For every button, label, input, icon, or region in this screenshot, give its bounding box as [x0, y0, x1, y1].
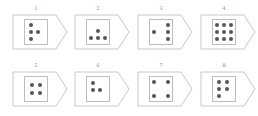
card-label: 5	[10, 62, 62, 68]
pip-dot	[217, 87, 221, 91]
pip-dot	[152, 80, 156, 84]
pip-dot	[36, 30, 40, 34]
pentagon-card	[12, 70, 70, 108]
dice-face	[86, 76, 110, 102]
pentagon-card	[74, 13, 132, 51]
pip-dot	[166, 80, 170, 84]
pip-dot	[215, 30, 219, 34]
pip-dot	[152, 30, 156, 34]
card-label: 6	[72, 62, 124, 68]
card-2: 2	[72, 5, 132, 57]
pip-dot	[166, 23, 170, 27]
pip-dot	[217, 80, 221, 84]
card-label: 2	[72, 5, 124, 11]
pip-dot	[225, 87, 229, 91]
card-8: 8	[198, 62, 258, 114]
dice-face	[149, 76, 173, 102]
pip-dot	[89, 36, 93, 40]
pip-dot	[222, 37, 226, 41]
pip-dot	[96, 29, 100, 33]
pip-dot	[29, 30, 33, 34]
dice-face	[24, 19, 48, 45]
dice-face	[86, 19, 110, 45]
pip-dot	[98, 88, 102, 92]
pip-dot	[166, 37, 170, 41]
pip-dot	[217, 94, 221, 98]
pentagon-card	[200, 13, 258, 51]
pip-dot	[229, 30, 233, 34]
pip-dot	[166, 30, 170, 34]
dice-face	[24, 76, 48, 102]
pip-dot	[91, 81, 95, 85]
card-label: 1	[10, 5, 62, 11]
pentagon-card	[200, 70, 258, 108]
pip-dot	[30, 83, 34, 87]
card-7: 7	[135, 62, 195, 114]
dice-face	[212, 76, 236, 102]
pip-dot	[38, 83, 42, 87]
pip-dot	[222, 23, 226, 27]
pip-dot	[30, 91, 34, 95]
pip-dot	[91, 88, 95, 92]
pip-dot	[29, 37, 33, 41]
pentagon-card	[137, 13, 195, 51]
pip-dot	[229, 37, 233, 41]
card-1: 1	[10, 5, 70, 57]
card-6: 6	[72, 62, 132, 114]
card-label: 7	[135, 62, 187, 68]
pip-dot	[222, 30, 226, 34]
card-label: 3	[135, 5, 187, 11]
pip-dot	[215, 23, 219, 27]
pip-dot	[38, 91, 42, 95]
dice-face	[212, 19, 236, 45]
card-4: 4	[198, 5, 258, 57]
pip-dot	[103, 36, 107, 40]
dice-face	[149, 19, 173, 45]
pentagon-card	[74, 70, 132, 108]
pip-dot	[225, 80, 229, 84]
pip-dot	[152, 94, 156, 98]
pip-dot	[166, 94, 170, 98]
pentagon-card	[137, 70, 195, 108]
pip-dot	[215, 37, 219, 41]
pentagon-card	[12, 13, 70, 51]
pip-dot	[96, 36, 100, 40]
card-label: 4	[198, 5, 250, 11]
card-5: 5	[10, 62, 70, 114]
pip-dot	[29, 23, 33, 27]
pip-dot	[229, 23, 233, 27]
card-label: 8	[198, 62, 250, 68]
card-3: 3	[135, 5, 195, 57]
